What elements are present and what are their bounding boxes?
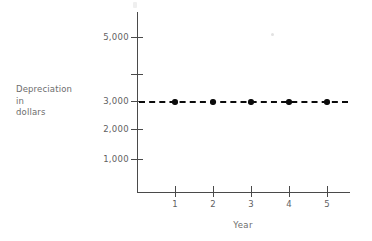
x-tick-mark [251,186,252,197]
series-dashed-line [139,101,348,103]
y-tick-label: 2,000 [85,124,129,134]
plot-area: 5,0003,0002,0001,000 12345 Year [0,0,372,241]
y-tick-mark [131,74,143,75]
y-tick-mark [131,129,143,130]
chart-figure: Depreciation in dollars 5,0003,0002,0001… [0,0,372,241]
y-tick-mark [131,37,143,38]
x-tick-label: 1 [165,199,185,209]
data-point-marker [210,99,215,104]
x-tick-mark [327,186,328,197]
data-point-marker [248,99,253,104]
data-point-marker [286,99,291,104]
x-tick-mark [289,186,290,197]
y-tick-label: 3,000 [85,96,129,106]
x-tick-label: 4 [279,199,299,209]
scan-artifact-speck [133,2,137,8]
x-axis-line [137,192,350,193]
scan-artifact-speck [271,33,274,36]
y-tick-mark [131,159,143,160]
y-tick-label: 5,000 [85,32,129,42]
data-point-marker [172,99,177,104]
x-tick-label: 5 [317,199,337,209]
data-point-marker [324,99,329,104]
x-axis-title: Year [213,220,273,230]
x-tick-mark [175,186,176,197]
y-tick-label: 1,000 [85,154,129,164]
x-tick-label: 2 [203,199,223,209]
x-tick-label: 3 [241,199,261,209]
x-tick-mark [213,186,214,197]
